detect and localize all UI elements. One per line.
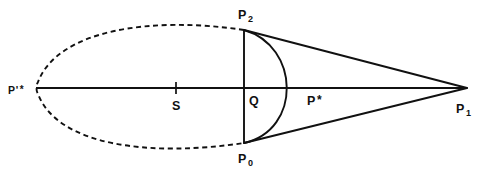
label-p2: P2 bbox=[238, 6, 253, 24]
label-q: Q bbox=[249, 92, 259, 108]
right-bulging-arc bbox=[244, 30, 287, 143]
label-p0-base: P bbox=[238, 152, 247, 166]
label-p0-subscript: 0 bbox=[247, 158, 254, 168]
diagram-canvas: P'* S Q P* P2 P0 P1 bbox=[0, 0, 493, 181]
label-p-star-base: P bbox=[307, 94, 316, 108]
label-p-prime-star: P'* bbox=[8, 81, 24, 97]
dashed-oval-curve bbox=[37, 25, 245, 149]
lower-tangent-line bbox=[244, 88, 467, 143]
label-p0: P0 bbox=[238, 150, 253, 168]
label-s: S bbox=[172, 97, 181, 113]
label-p1: P1 bbox=[456, 100, 471, 118]
label-p-prime-star-asterisk: * bbox=[18, 84, 23, 95]
label-p1-base: P bbox=[456, 102, 465, 116]
label-q-base: Q bbox=[249, 94, 259, 108]
label-p-star-asterisk: * bbox=[316, 93, 322, 107]
label-p2-subscript: 2 bbox=[247, 14, 254, 24]
label-p-star: P* bbox=[307, 92, 322, 108]
label-p2-base: P bbox=[238, 8, 247, 22]
label-p1-subscript: 1 bbox=[465, 108, 472, 118]
upper-tangent-line bbox=[244, 30, 467, 88]
label-s-base: S bbox=[172, 99, 181, 113]
